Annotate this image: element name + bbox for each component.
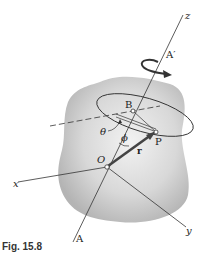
b-label: B <box>125 99 132 110</box>
rigid-body-shape <box>58 77 189 223</box>
rotation-arrowhead <box>163 70 172 78</box>
a-label: A <box>75 233 84 244</box>
rigid-body-diagram: z A′ B θ ϕ P r O x y A <box>0 0 209 255</box>
origin-point <box>105 165 109 169</box>
y-axis-label: y <box>185 225 192 236</box>
theta-label: θ <box>100 126 106 137</box>
point-p <box>154 130 158 134</box>
o-label: O <box>97 154 105 165</box>
z-axis-label: z <box>184 10 191 21</box>
p-label: P <box>155 136 162 147</box>
x-axis-label: x <box>13 178 19 189</box>
a-prime-label: A′ <box>165 49 176 60</box>
r-label: r <box>137 146 142 156</box>
figure-caption: Fig. 15.8 <box>2 241 42 252</box>
phi-label: ϕ <box>121 132 128 143</box>
rotation-arrow-icon <box>142 60 166 74</box>
